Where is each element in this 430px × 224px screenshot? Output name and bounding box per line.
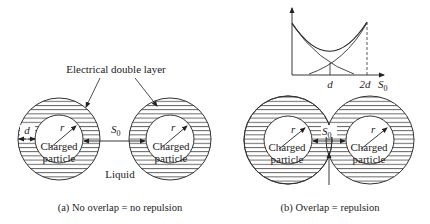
energy-chart: d 2d S0 bbox=[292, 8, 388, 93]
particle-label-line2: particle bbox=[43, 152, 76, 164]
radius-label: r bbox=[171, 121, 176, 133]
particle-left-line1: Charged bbox=[268, 141, 306, 153]
radius-label: r bbox=[60, 121, 65, 133]
separation-label: S0 bbox=[111, 123, 121, 138]
curve-decreasing bbox=[292, 24, 354, 74]
medium-label: Liquid bbox=[105, 168, 135, 180]
tick-label-2d: 2d bbox=[360, 78, 372, 90]
particle-label-line2: particle bbox=[155, 152, 188, 164]
thickness-label: d bbox=[24, 124, 30, 136]
caption-b: (b) Overlap = repulsion bbox=[281, 202, 381, 214]
curve-total bbox=[292, 22, 367, 51]
tick-label-d: d bbox=[327, 78, 333, 90]
particle-right-line2: particle bbox=[353, 153, 386, 165]
x-axis-label: S0 bbox=[378, 78, 388, 93]
double-layer-label: Electrical double layer bbox=[66, 63, 166, 75]
particle-right-a: r Charged particle bbox=[129, 98, 211, 180]
panel-a: r Charged particle d r Charged particle … bbox=[18, 63, 211, 214]
leader-line-left bbox=[86, 78, 100, 107]
diagram-svg: r Charged particle d r Charged particle … bbox=[0, 0, 430, 224]
leader-line-right bbox=[135, 78, 157, 106]
caption-a: (a) No overlap = no repulsion bbox=[58, 202, 183, 214]
particle-label-line1: Charged bbox=[40, 140, 78, 152]
particle-left-line2: particle bbox=[271, 153, 304, 165]
diagram-canvas: r Charged particle d r Charged particle … bbox=[0, 0, 430, 224]
particle-left-a: r Charged particle d bbox=[18, 98, 100, 180]
panel-b: S0 r Charged particle r Charged particle… bbox=[244, 96, 414, 214]
particle-label-line1: Charged bbox=[152, 140, 190, 152]
radius-label-left: r bbox=[291, 123, 296, 135]
particle-right-line1: Charged bbox=[350, 141, 388, 153]
radius-label-right: r bbox=[371, 123, 376, 135]
